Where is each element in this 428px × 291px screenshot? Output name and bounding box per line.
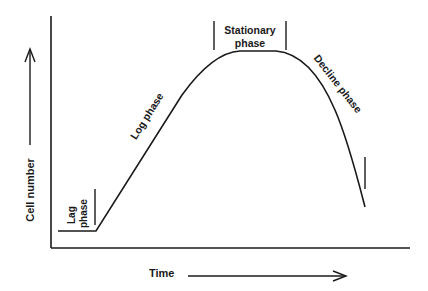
stationary-phase-label: Stationary xyxy=(224,24,276,36)
growth-curve-diagram: Cell number Time Lag phase Log phase Sta… xyxy=(0,0,428,291)
growth-curve xyxy=(58,51,365,231)
log-phase-label: Log phase xyxy=(128,90,166,141)
decline-phase-label: Decline phase xyxy=(312,52,365,115)
y-axis-label: Cell number xyxy=(24,158,36,222)
x-axis-label: Time xyxy=(149,267,174,279)
y-axis-arrow-icon xyxy=(25,49,35,145)
x-axis-arrow-icon xyxy=(188,271,346,281)
stationary-phase-label-2: phase xyxy=(235,37,266,49)
lag-phase-label-2: phase xyxy=(78,199,89,228)
lag-phase-label: Lag xyxy=(66,206,77,224)
